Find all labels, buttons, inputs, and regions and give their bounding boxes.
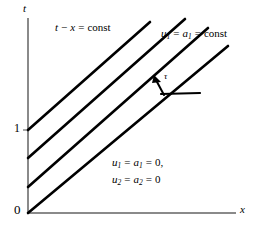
label-u1-a1-const-a-sub: 1	[188, 32, 192, 41]
characteristics-diagram: t x 0 1 t−x=const u1=a1=const τ u1=a1=0,…	[0, 0, 260, 237]
label-u1-a1-const: u1=a1=const	[161, 28, 227, 40]
characteristic-line-1	[28, 22, 150, 130]
label-t-minus-x-const-rhs: const	[87, 21, 110, 33]
t-axis-tick-label-1: 1	[14, 122, 20, 134]
region-label-line-1: u1=a1=0,	[112, 157, 163, 169]
label-t-minus-x-const: t−x=const	[55, 22, 111, 33]
region-label-line-1-eq1: =	[124, 156, 130, 168]
tau-label: τ	[164, 72, 167, 81]
tau-normal-ray	[161, 93, 200, 94]
origin-label: 0	[14, 203, 21, 216]
region-label-line-1-a-sub: 1	[139, 161, 143, 170]
region-label-line-2-eq1: =	[124, 173, 130, 185]
label-t-minus-x-const-eq: =	[78, 21, 84, 33]
label-u1-a1-const-eq2: =	[195, 27, 201, 39]
region-label-line-1-u-sub: 1	[118, 161, 122, 170]
region-label-line-2-eq2: =	[146, 173, 152, 185]
label-u1-a1-const-u-sub: 1	[167, 32, 171, 41]
label-u1-a1-const-rhs: const	[204, 27, 227, 39]
region-label-line-2: u2=a2=0	[112, 174, 160, 186]
region-label-line-1-value: 0,	[155, 156, 163, 168]
label-t-minus-x-const-op: −	[61, 21, 67, 33]
region-label-line-2-a-sub: 2	[139, 178, 143, 187]
label-t-minus-x-const-t: t	[55, 21, 58, 33]
region-label-line-2-u-sub: 2	[118, 178, 122, 187]
region-label-line-2-value: 0	[155, 173, 161, 185]
x-axis-label: x	[240, 204, 245, 215]
label-u1-a1-const-eq1: =	[173, 27, 179, 39]
t-axis-label: t	[23, 3, 26, 14]
region-label-line-1-eq2: =	[146, 156, 152, 168]
label-t-minus-x-const-x: x	[70, 21, 75, 33]
